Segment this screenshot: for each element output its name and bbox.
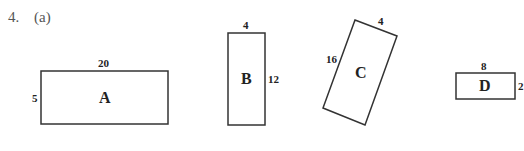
shape-b-name: B bbox=[241, 70, 252, 88]
shape-b-height: 12 bbox=[268, 73, 279, 85]
shape-d-width: 8 bbox=[481, 60, 487, 72]
shape-d-name: D bbox=[479, 77, 491, 95]
shape-a-height: 5 bbox=[32, 92, 38, 104]
shape-d-height: 2 bbox=[518, 80, 524, 92]
shape-c-height: 16 bbox=[326, 53, 337, 65]
shape-a-width: 20 bbox=[98, 57, 109, 69]
figure-canvas bbox=[0, 0, 524, 151]
shape-c-name: C bbox=[355, 64, 367, 82]
shape-a-name: A bbox=[99, 89, 111, 107]
shape-b-width: 4 bbox=[243, 19, 249, 31]
shape-c-width: 4 bbox=[378, 15, 384, 27]
